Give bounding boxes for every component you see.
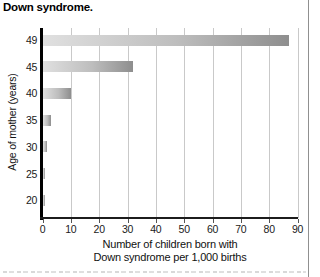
x-tick-label-70: 70: [228, 223, 254, 235]
bar-age-30: [43, 141, 47, 152]
page-column-rule: [308, 0, 309, 277]
x-axis-title-line-1: Number of children born with: [42, 238, 298, 251]
x-axis-line: [40, 217, 298, 219]
bar-age-25: [43, 168, 46, 179]
gridline-x-70: [241, 28, 242, 218]
chart-figure: Down syndrome. 0102030405060708090494540…: [0, 0, 320, 277]
x-tick-label-90: 90: [285, 223, 311, 235]
clipped-source-line: [3, 271, 306, 273]
y-tick-label-49: 49: [14, 34, 37, 46]
bar-age-20: [43, 195, 45, 206]
bar-age-40: [43, 88, 71, 99]
x-tick-label-20: 20: [86, 223, 112, 235]
gridline-x-30: [128, 28, 129, 218]
x-tick-label-0: 0: [30, 223, 56, 235]
gridline-x-90: [298, 28, 299, 218]
bar-age-49: [43, 35, 290, 46]
x-axis-title: Number of children born with Down syndro…: [42, 238, 298, 264]
x-tick-label-80: 80: [256, 223, 282, 235]
x-tick-label-40: 40: [143, 223, 169, 235]
x-tick-label-50: 50: [171, 223, 197, 235]
gridline-x-50: [184, 28, 185, 218]
gridline-x-20: [99, 28, 100, 218]
bar-age-35: [43, 115, 52, 126]
y-axis-line: [40, 28, 43, 220]
x-tick-label-60: 60: [200, 223, 226, 235]
x-tick-label-30: 30: [115, 223, 141, 235]
y-axis-title: Age of mother (years): [6, 67, 18, 177]
x-axis-title-line-2: Down syndrome per 1,000 births: [42, 251, 298, 264]
gridline-x-40: [156, 28, 157, 218]
gridline-x-10: [71, 28, 72, 218]
chart-title: Down syndrome.: [3, 1, 93, 13]
gridline-x-80: [269, 28, 270, 218]
x-tick-label-10: 10: [58, 223, 84, 235]
gridline-x-60: [213, 28, 214, 218]
y-tick-label-20: 20: [14, 194, 37, 206]
bar-age-45: [43, 61, 134, 72]
